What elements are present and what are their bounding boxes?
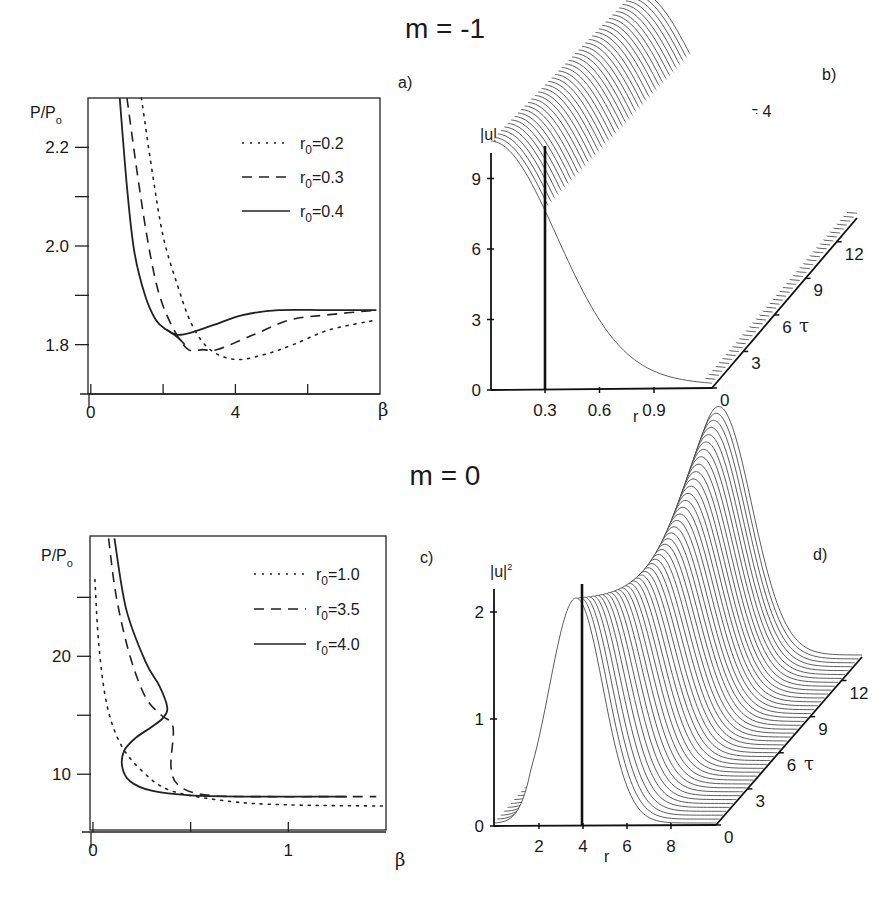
z-tick-label: 6 bbox=[472, 240, 481, 259]
figure-canvas: m = -1 m = 0 a) 2.22.01.804 r0=0.2r0=0.3… bbox=[0, 0, 890, 902]
r-tick-label: 8 bbox=[666, 837, 675, 856]
panel-b-r-label: r bbox=[633, 408, 639, 425]
panel-c-chart: c) 201001 r0=1.0r0=3.5r0=4.0 P/Po β bbox=[41, 536, 433, 870]
tau-tick-label: 9 bbox=[818, 720, 827, 739]
r-tick-label: 0.9 bbox=[642, 401, 666, 420]
series-solid bbox=[114, 538, 346, 796]
tau-tick-label: 6 bbox=[787, 756, 796, 775]
z-tick-label: 1 bbox=[475, 710, 484, 729]
panel-a-xlabel: β bbox=[378, 399, 388, 420]
panel-a-legend: r0=0.2r0=0.3r0=0.4 bbox=[242, 135, 344, 225]
z-tick-label: 9 bbox=[472, 170, 481, 189]
y-tick-label: 20 bbox=[52, 647, 71, 666]
r-tick-label: 6 bbox=[622, 837, 631, 856]
panel-c-legend: r0=1.0r0=3.5r0=4.0 bbox=[254, 566, 360, 658]
r-tick-label: 4 bbox=[578, 837, 587, 856]
panel-c-label: c) bbox=[420, 549, 433, 566]
panel-a-ylabel: P/Po bbox=[30, 104, 62, 126]
z-tick-label: 2 bbox=[475, 603, 484, 622]
panel-d-zlabel: |u|2 bbox=[490, 562, 512, 580]
tau-tick-label: 9 bbox=[814, 281, 823, 300]
r-axis bbox=[494, 825, 716, 826]
panel-b-zlabel: |u| bbox=[480, 126, 497, 143]
panel-a-chart: a) 2.22.01.804 r0=0.2r0=0.3r0=0.4 P/Po β bbox=[30, 74, 412, 422]
legend-label: r0=0.2 bbox=[300, 135, 344, 157]
panel-d-r-label: r bbox=[604, 848, 610, 865]
tau-tick-label: 12 bbox=[850, 684, 869, 703]
x-tick-label: 4 bbox=[231, 403, 240, 422]
x-tick-label: 0 bbox=[88, 841, 97, 860]
r-tick-label: 0.6 bbox=[588, 401, 612, 420]
legend-label: r0=3.5 bbox=[316, 601, 360, 623]
legend-label: r0=1.0 bbox=[316, 566, 360, 588]
panel-c-xlabel: β bbox=[395, 849, 405, 870]
bottom-title: m = 0 bbox=[410, 460, 481, 491]
x-tick-label: 0 bbox=[86, 403, 95, 422]
z-tick-label: 0 bbox=[475, 817, 484, 836]
x-tick-label: 1 bbox=[284, 841, 293, 860]
panel-d-label: d) bbox=[813, 546, 827, 563]
r-tick-label: 0.3 bbox=[533, 401, 557, 420]
tau-tick-label: 6 bbox=[782, 318, 791, 337]
panel-b-label: b) bbox=[822, 66, 836, 83]
panel-d-tau-label: τ bbox=[804, 753, 814, 774]
y-tick-label: 2.0 bbox=[45, 237, 69, 256]
y-tick-label: 2.2 bbox=[45, 138, 69, 157]
tau-tick-label: 0 bbox=[724, 828, 733, 847]
panel-b-surface: b) β = 4 |u| 03690.30.60.9036912 r τ bbox=[472, 0, 864, 425]
panel-c-ylabel: P/Po bbox=[41, 547, 73, 569]
tau-tick-label: 12 bbox=[845, 245, 864, 264]
y-tick-label: 10 bbox=[52, 765, 71, 784]
panel-d-surface: d) β = 0.3 |u|2 0122468036912 r τ bbox=[475, 406, 869, 865]
z-tick-label: 3 bbox=[472, 311, 481, 330]
legend-label: r0=0.4 bbox=[300, 203, 344, 225]
r-axis bbox=[491, 388, 712, 390]
top-title: m = -1 bbox=[405, 13, 485, 44]
legend-label: r0=0.3 bbox=[300, 169, 344, 191]
tau-tick-label: 3 bbox=[751, 354, 760, 373]
y-tick-label: 1.8 bbox=[45, 336, 69, 355]
panel-b-tau-label: τ bbox=[799, 315, 809, 336]
tau-tick-label: 3 bbox=[755, 792, 764, 811]
z-tick-label: 0 bbox=[472, 381, 481, 400]
r-tick-label: 2 bbox=[534, 837, 543, 856]
panel-a-label: a) bbox=[398, 74, 412, 91]
legend-label: r0=4.0 bbox=[316, 636, 360, 658]
